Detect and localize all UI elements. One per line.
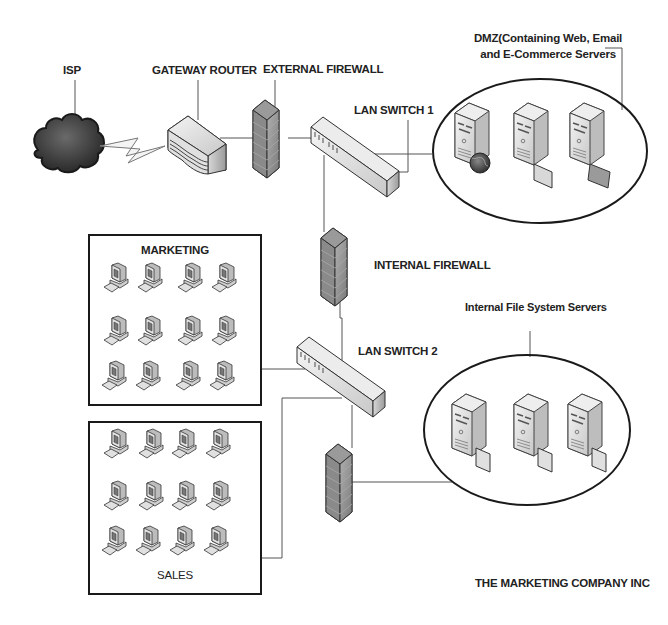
dmz-label-line-1: DMZ(Containing Web, Email xyxy=(474,30,622,46)
marketing-workstations xyxy=(102,263,236,390)
external-firewall-label: EXTERNAL FIREWALL xyxy=(263,63,383,75)
external-firewall-icon xyxy=(253,100,279,178)
lan-switch-2-label: LAN SWITCH 2 xyxy=(358,345,437,357)
file-icon xyxy=(592,448,606,472)
file-server-firewall-icon xyxy=(326,444,352,522)
isp-label: ISP xyxy=(63,64,81,76)
internal-firewall-label: INTERNAL FIREWALL xyxy=(374,259,491,271)
file-servers-label: Internal File System Servers xyxy=(465,301,607,313)
marketing-label: MARKETING xyxy=(89,244,261,256)
cloud-icon xyxy=(34,114,104,172)
dmz-label: DMZ(Containing Web, Email and E-Commerce… xyxy=(474,30,622,62)
file-icon xyxy=(538,448,552,472)
file-server-2-icon xyxy=(514,394,548,456)
diagram-title: THE MARKETING COMPANY INC xyxy=(475,577,650,589)
sales-workstations xyxy=(102,429,230,555)
router-icon xyxy=(168,116,226,174)
file-server-3-icon xyxy=(568,394,602,456)
sales-label: SALES xyxy=(89,569,261,581)
wan-link-icon xyxy=(100,138,165,163)
mail-icon xyxy=(534,164,552,188)
dmz-label-line-2: and E-Commerce Servers xyxy=(474,46,622,62)
lan-switch-1-label: LAN SWITCH 1 xyxy=(354,104,433,116)
file-icon xyxy=(476,448,490,472)
card-icon xyxy=(588,164,610,188)
gateway-router-label: GATEWAY ROUTER xyxy=(152,64,257,76)
ecommerce-server-icon xyxy=(570,103,604,165)
internal-firewall-icon xyxy=(321,228,347,306)
file-server-1-icon xyxy=(452,394,486,456)
email-server-icon xyxy=(514,103,548,165)
globe-icon xyxy=(470,153,490,173)
